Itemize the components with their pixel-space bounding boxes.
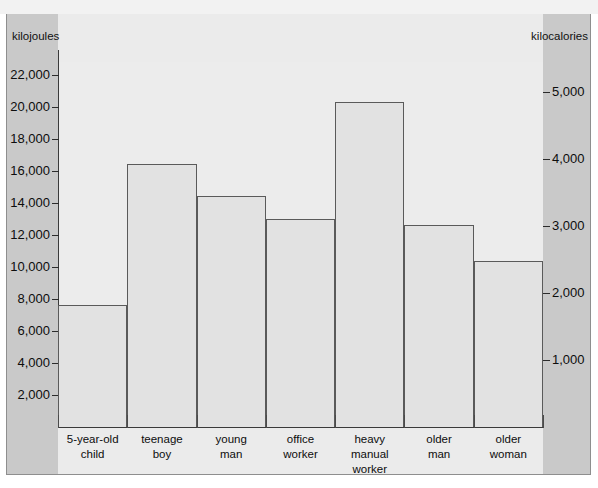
- x-category-line: older: [474, 432, 543, 447]
- bar: [266, 219, 335, 427]
- x-tick: [58, 415, 59, 428]
- x-category-label: youngman: [197, 432, 266, 462]
- x-category-line: heavy: [335, 432, 404, 447]
- bar: [197, 196, 266, 427]
- y-tick-left: [52, 107, 59, 108]
- x-category-line: man: [197, 447, 266, 462]
- x-category-line: manual: [335, 447, 404, 462]
- x-category-line: young: [197, 432, 266, 447]
- y-tick-label-left: 14,000: [4, 195, 50, 210]
- x-category-line: man: [404, 447, 473, 462]
- x-category-line: worker: [335, 462, 404, 477]
- y-tick-label-right: 4,000: [552, 151, 598, 166]
- x-axis-line: [58, 427, 544, 428]
- bar: [404, 225, 473, 427]
- x-category-line: child: [58, 447, 127, 462]
- y-tick-right: [543, 226, 550, 227]
- y-tick-right: [543, 159, 550, 160]
- x-tick: [474, 415, 475, 428]
- x-category-label: 5-year-oldchild: [58, 432, 127, 462]
- x-category-line: 5-year-old: [58, 432, 127, 447]
- bar: [335, 102, 404, 427]
- x-category-label: olderwoman: [474, 432, 543, 462]
- x-tick: [197, 415, 198, 428]
- x-category-line: woman: [474, 447, 543, 462]
- x-category-label: olderman: [404, 432, 473, 462]
- y-tick-right: [543, 360, 550, 361]
- y-tick-label-left: 18,000: [4, 131, 50, 146]
- y-tick-left: [52, 299, 59, 300]
- y-tick-label-left: 2,000: [4, 387, 50, 402]
- left-axis-unit-label: kilojoules: [12, 30, 59, 42]
- x-category-line: older: [404, 432, 473, 447]
- y-tick-label-right: 5,000: [552, 84, 598, 99]
- y-tick-label-right: 3,000: [552, 218, 598, 233]
- y-tick-label-left: 16,000: [4, 163, 50, 178]
- y-tick-label-right: 1,000: [552, 352, 598, 367]
- y-tick-left: [52, 235, 59, 236]
- bar: [127, 164, 196, 427]
- x-tick: [543, 415, 544, 428]
- y-tick-label-left: 12,000: [4, 227, 50, 242]
- y-tick-label-left: 6,000: [4, 323, 50, 338]
- y-tick-label-left: 4,000: [4, 355, 50, 370]
- x-category-label: heavymanualworker: [335, 432, 404, 477]
- y-tick-label-right: 2,000: [552, 285, 598, 300]
- x-category-line: worker: [266, 447, 335, 462]
- y-tick-label-left: 20,000: [4, 99, 50, 114]
- top-strip: [0, 0, 598, 14]
- x-tick: [266, 415, 267, 428]
- x-category-label: officeworker: [266, 432, 335, 462]
- x-category-label: teenageboy: [127, 432, 196, 462]
- y-tick-left: [52, 203, 59, 204]
- x-tick: [127, 415, 128, 428]
- y-tick-right: [543, 293, 550, 294]
- y-tick-left: [52, 171, 59, 172]
- y-tick-label-left: 8,000: [4, 291, 50, 306]
- x-tick: [404, 415, 405, 428]
- y-tick-left: [52, 267, 59, 268]
- y-tick-label-left: 10,000: [4, 259, 50, 274]
- y-tick-left: [52, 139, 59, 140]
- x-category-line: office: [266, 432, 335, 447]
- y-tick-right: [543, 92, 550, 93]
- right-axis-unit-label: kilocalories: [531, 30, 588, 42]
- chart-figure: kilojoules kilocalories 2,0004,0006,0008…: [0, 0, 598, 488]
- x-tick: [335, 415, 336, 428]
- x-category-line: boy: [127, 447, 196, 462]
- y-tick-left: [52, 75, 59, 76]
- bar: [58, 305, 127, 427]
- x-category-line: teenage: [127, 432, 196, 447]
- y-tick-label-left: 22,000: [4, 67, 50, 82]
- bar: [474, 261, 543, 427]
